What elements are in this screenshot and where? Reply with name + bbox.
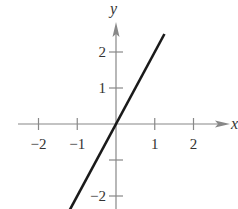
series-line: [70, 34, 165, 209]
series: [70, 34, 165, 209]
y-tick-label: 2: [99, 44, 107, 60]
x-axis-label: x: [230, 115, 238, 132]
x-tick-label: 1: [151, 136, 159, 152]
x-tick-label: 2: [190, 136, 198, 152]
y-tick-label: 1: [99, 80, 107, 96]
x-tick-label: −1: [69, 136, 85, 152]
y-axis-label: y: [108, 0, 118, 18]
chart: −2−112−212 x y: [0, 0, 238, 209]
y-tick-label: −2: [90, 188, 106, 204]
x-tick-label: −2: [31, 136, 47, 152]
axes: [18, 22, 230, 209]
